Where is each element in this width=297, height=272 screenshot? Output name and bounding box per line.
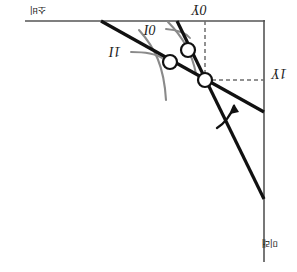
- diagram-canvas: [0, 0, 297, 272]
- label-y0: 0Y: [192, 2, 207, 16]
- label-i1: 1I: [109, 44, 121, 58]
- label-i0-sub: 0: [149, 22, 156, 37]
- equilibrium-point-upper: [181, 43, 195, 57]
- right-axis-label: 미래: [262, 238, 278, 247]
- label-y1-base: Y: [272, 66, 280, 81]
- label-i1-base: I: [109, 44, 114, 59]
- endowment-point: [198, 73, 212, 87]
- axis-group: [25, 20, 265, 262]
- economics-budget-diagram: 소비 미래 0Y 1Y 0I 1I: [0, 0, 297, 272]
- indifference-curve-i1: [139, 30, 166, 100]
- label-y1: 1Y: [272, 66, 287, 80]
- label-i0: 0I: [144, 22, 156, 36]
- top-axis-label: 소비: [30, 5, 46, 14]
- rotation-arrow-head: [230, 104, 239, 114]
- label-y1-sub: 1: [280, 66, 287, 81]
- equilibrium-point-middle: [163, 55, 177, 69]
- label-i0-base: I: [144, 22, 149, 37]
- label-y0-sub: 0: [200, 2, 207, 17]
- label-y0-base: Y: [192, 2, 200, 17]
- guide-lines-group: [205, 21, 264, 80]
- label-i1-sub: 1: [114, 44, 121, 59]
